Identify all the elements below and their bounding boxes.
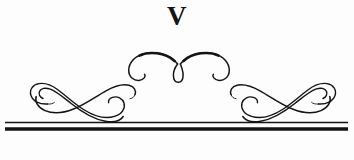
left-swash-left-terminal-hairline [48, 102, 55, 104]
center-flourish-icon [129, 53, 230, 82]
left-swash-flourish-icon [30, 83, 135, 121]
ornament-page: V [0, 0, 354, 160]
center-flourish-right-arc-swell [184, 53, 219, 61]
ornament-artwork [0, 0, 354, 160]
double-rule-divider [5, 123, 348, 130]
left-swash-right-terminal-hairline [130, 95, 135, 99]
right-swash-flourish-icon [231, 83, 336, 121]
center-flourish-left-arc-swell [140, 53, 175, 61]
center-flourish-teardrop-loop [173, 64, 183, 82]
right-swash-left-terminal-hairline [231, 95, 236, 99]
right-swash-right-terminal-hairline [312, 102, 319, 104]
